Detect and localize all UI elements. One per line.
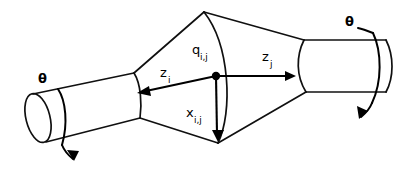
z-axis-i-shaft (146, 76, 216, 91)
z-axis-i-label-base: z (160, 65, 167, 80)
z-axis-i-label-sub: i (168, 75, 171, 85)
z-axis-i-vector (137, 76, 216, 96)
left-link-top-edge (33, 73, 134, 94)
theta-right-rotation: θ (345, 14, 380, 119)
diagram-canvas: θ (0, 0, 415, 181)
x-axis-vector (212, 76, 224, 142)
theta-left-label: θ (38, 71, 47, 86)
right-link-end-cap (386, 40, 392, 92)
theta-left-rotation: θ (38, 71, 79, 161)
z-axis-j-label-group: z j (262, 49, 273, 69)
z-axis-j-arrow-head (285, 71, 296, 81)
joint-origin-dot (212, 72, 220, 80)
z-axis-j-vector (216, 71, 296, 81)
z-axis-j-label-base: z (262, 49, 269, 64)
bicone-upper-right-edge (204, 12, 304, 40)
theta-right-arrow-lead (358, 28, 373, 33)
theta-left-arc (58, 89, 65, 145)
joint-origin-label-group: q i,j (192, 42, 208, 62)
x-axis-shaft (216, 76, 217, 134)
left-link-junction-arc (134, 73, 141, 118)
right-link-junction-arc (298, 40, 306, 92)
x-axis-label-base: x (186, 105, 194, 120)
z-axis-j-label-sub: j (269, 59, 273, 69)
left-link-end-cap (20, 91, 55, 145)
bicone-lower-left-edge (140, 118, 218, 143)
theta-right-label: θ (345, 14, 354, 29)
joint-diagram: θ (0, 0, 415, 181)
joint-origin-label-sub: i,j (200, 52, 208, 62)
x-axis-label-group: x i,j (186, 105, 202, 125)
x-axis-label-sub: i,j (194, 115, 202, 125)
bicone-lower-right-edge (218, 92, 306, 143)
left-link-bottom-edge (46, 118, 140, 142)
z-axis-i-label-group: z i (160, 65, 171, 85)
